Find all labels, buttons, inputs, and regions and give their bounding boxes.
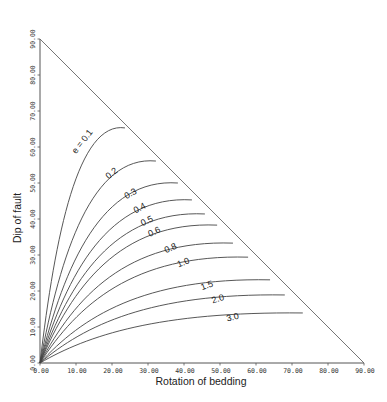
- curve-label: 0.8: [163, 241, 179, 255]
- x-tick-label: 90.00: [355, 367, 375, 375]
- curve-line: [40, 243, 233, 363]
- x-tick-label: 30.00: [139, 367, 159, 375]
- y-tick-label: 40.00: [29, 209, 37, 229]
- curve-label: 3.0: [225, 311, 240, 324]
- y-tick-label: 90.00: [29, 29, 37, 49]
- curve-label: 1.5: [199, 278, 214, 292]
- y-tick-label: 20.00: [29, 281, 37, 301]
- y-tick-label: 60.00: [29, 137, 37, 157]
- curve-line: [40, 161, 156, 363]
- x-tick-label: 10.00: [67, 367, 87, 375]
- x-tick-label: 70.00: [283, 367, 303, 375]
- chart: 0.0010.0020.0030.0040.0050.0060.0070.008…: [0, 0, 387, 402]
- curve-label: 0.5: [139, 214, 155, 228]
- y-tick-label: 0.00: [29, 355, 37, 371]
- y-tick-label: 10.00: [29, 317, 37, 337]
- y-tick-label: 80.00: [29, 65, 37, 85]
- x-tick-label: 60.00: [247, 367, 267, 375]
- curve-line: [40, 183, 178, 363]
- y-tick-label: 70.00: [29, 101, 37, 121]
- x-tick-label: 20.00: [103, 367, 123, 375]
- curve-line: [40, 313, 303, 363]
- y-tick-label: 50.00: [29, 173, 37, 193]
- curve-label: 0.2: [103, 165, 119, 181]
- curve-label: 1.0: [176, 255, 191, 269]
- curve-line: [40, 295, 285, 363]
- x-tick-label: 50.00: [211, 367, 231, 375]
- y-tick-label: 30.00: [29, 245, 37, 265]
- x-tick-label: 40.00: [175, 367, 195, 375]
- x-axis-title: Rotation of bedding: [155, 375, 246, 387]
- y-axis-title: Dip of fault: [11, 193, 23, 243]
- curve-label: 0.6: [146, 224, 162, 238]
- curve-line: [40, 214, 205, 363]
- curve-label: 0.3: [122, 186, 138, 201]
- curve-label: 0.4: [132, 201, 148, 216]
- x-tick-label: 80.00: [319, 367, 339, 375]
- boundary-diagonal-line: [40, 39, 364, 363]
- axes: 0.0010.0020.0030.0040.0050.0060.0070.008…: [29, 29, 375, 375]
- curve-label: 2.0: [210, 292, 225, 305]
- curve-label: e = 0.1: [70, 127, 95, 155]
